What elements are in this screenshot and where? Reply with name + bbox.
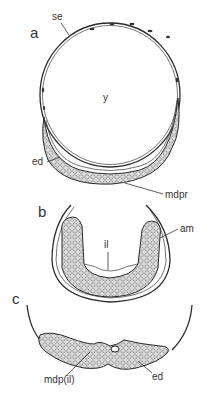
serosa-nuclei: [42, 23, 178, 110]
inner-layer-bulge: [84, 264, 138, 271]
panel-label-a: a: [30, 24, 39, 41]
embryo-section-figure: a y se ed mdpr b: [0, 0, 218, 396]
mdpr-label: mdpr: [165, 189, 188, 200]
am-leader: [160, 229, 178, 238]
panel-label-c: c: [12, 290, 20, 307]
panel-b: b il am: [38, 203, 194, 302]
germ-band-tissue: [43, 98, 179, 184]
embryonic-disc-label-a: ed: [32, 156, 43, 167]
yolk-label: y: [103, 92, 108, 103]
serosa-inner-outline: [43, 26, 178, 165]
midline-cell: [111, 346, 119, 352]
panel-c: c mdp(il) ed: [12, 290, 192, 385]
panel-label-b: b: [38, 203, 46, 220]
serosa-outline: [40, 23, 180, 167]
serosa-leader: [61, 23, 69, 35]
mdpr-leader: [125, 183, 163, 194]
germ-band-u-shape: [62, 217, 161, 297]
serosa-label: se: [52, 11, 63, 22]
serosa-curve-right: [172, 305, 192, 350]
embryonic-disc-label-c: ed: [152, 371, 163, 382]
amnion-label: am: [180, 223, 194, 234]
mdp-il-label: mdp(il): [44, 374, 75, 385]
panel-a: a y se ed mdpr: [30, 11, 188, 200]
inner-layer-label: il: [104, 239, 108, 250]
germ-band-flat: [39, 333, 168, 369]
